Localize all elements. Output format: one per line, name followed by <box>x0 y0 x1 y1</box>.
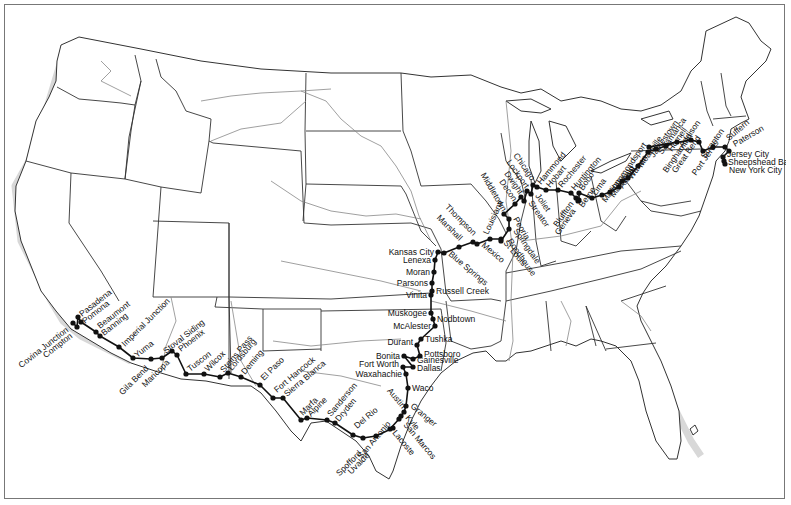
station-marker: Waxahachie <box>356 369 409 379</box>
station-dot-icon <box>169 348 174 353</box>
station-marker: Muskogee <box>388 308 434 318</box>
station-dot-icon <box>474 241 479 246</box>
station-dot-icon <box>280 395 285 400</box>
station-dot-icon <box>401 353 406 358</box>
station-dot-icon <box>174 352 179 357</box>
station-dot-icon <box>430 316 435 321</box>
station-dot-icon <box>498 238 503 243</box>
us-map: Covina JunctionComptonPasadenaPomonaBeau… <box>5 5 786 500</box>
station-dot-icon <box>201 371 206 376</box>
station-marker: Kansas City <box>389 247 441 257</box>
station-label: Waxahachie <box>356 369 403 379</box>
station-label: Kansas City <box>389 247 435 257</box>
station-dot-icon <box>435 249 440 254</box>
station-dot-icon <box>148 356 153 361</box>
station-dot-icon <box>298 417 303 422</box>
station-dot-icon <box>400 364 405 369</box>
station-marker: Russell Creek <box>429 286 489 296</box>
station-marker: Pottsboro <box>417 349 460 359</box>
map-frame: Covina JunctionComptonPasadenaPomonaBeau… <box>4 4 785 499</box>
station-dot-icon <box>414 342 419 347</box>
station-label: Tushka <box>425 334 453 344</box>
station-dot-icon <box>417 353 422 358</box>
station-dot-icon <box>506 226 511 231</box>
station-dot-icon <box>238 374 243 379</box>
station-dot-icon <box>257 382 262 387</box>
station-label: Vinita <box>406 290 427 300</box>
station-dot-icon <box>350 432 355 437</box>
station-dot-icon <box>410 356 415 361</box>
station-dot-icon <box>543 187 548 192</box>
station-dot-icon <box>405 385 410 390</box>
station-dot-icon <box>534 184 539 189</box>
station-dot-icon <box>217 374 222 379</box>
station-dot-icon <box>225 370 230 375</box>
station-dot-icon <box>456 244 461 249</box>
station-dot-icon <box>432 323 437 328</box>
station-label: Parsons <box>397 278 428 288</box>
station-marker: McAlester <box>393 321 437 331</box>
station-dot-icon <box>722 161 727 166</box>
station-dot-icon <box>441 250 446 255</box>
station-dot-icon <box>183 371 188 376</box>
station-dot-icon <box>70 320 75 325</box>
station-marker: Nodbtown <box>430 314 475 324</box>
station-dot-icon <box>589 195 594 200</box>
station-dot-icon <box>512 201 517 206</box>
station-label: Muskogee <box>388 308 427 318</box>
lake-okeechobee <box>690 425 698 435</box>
station-label: Durant <box>387 337 413 347</box>
station-dot-icon <box>418 336 423 341</box>
station-dot-icon <box>568 190 573 195</box>
station-dot-icon <box>501 211 506 216</box>
station-dot-icon <box>401 409 406 414</box>
station-dot-icon <box>428 310 433 315</box>
station-dot-icon <box>74 324 79 329</box>
station-label: Nodbtown <box>437 314 476 324</box>
station-dot-icon <box>93 329 98 334</box>
station-dot-icon <box>487 236 492 241</box>
station-label: Pottsboro <box>424 349 461 359</box>
station-dot-icon <box>506 216 511 221</box>
station-label: New York City <box>729 165 783 175</box>
station-dot-icon <box>576 190 581 195</box>
station-dot-icon <box>116 344 121 349</box>
station-dot-icon <box>432 257 437 262</box>
station-dot-icon <box>360 435 365 440</box>
station-dot-icon <box>429 288 434 293</box>
station-dot-icon <box>410 364 415 369</box>
station-dot-icon <box>324 417 329 422</box>
station-dot-icon <box>387 426 392 431</box>
station-label: Waco <box>412 383 434 393</box>
station-label: Bonita <box>376 351 400 361</box>
station-label: McAlester <box>393 321 431 331</box>
station-dot-icon <box>429 280 434 285</box>
station-label: Moran <box>406 267 430 277</box>
station-dot-icon <box>528 191 533 196</box>
station-dot-icon <box>403 371 408 376</box>
station-dot-icon <box>431 269 436 274</box>
station-dot-icon <box>403 403 408 408</box>
station-dot-icon <box>521 198 526 203</box>
station-dot-icon <box>555 187 560 192</box>
station-dot-icon <box>270 395 275 400</box>
station-label: Russell Creek <box>436 286 490 296</box>
